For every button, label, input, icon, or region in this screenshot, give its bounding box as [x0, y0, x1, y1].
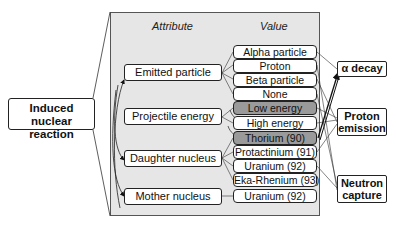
value-beta-particle[interactable]: Beta particle	[233, 73, 317, 87]
neutron-capture-line2: capture	[338, 189, 386, 201]
attribute-daughter-nucleus[interactable]: Daughter nucleus	[124, 150, 222, 167]
neutron-capture-line1: Neutron	[338, 177, 386, 189]
value-mother-uranium-92[interactable]: Uranium (92)	[233, 189, 317, 203]
root-label-line2: reaction	[9, 128, 94, 141]
value-alpha-particle[interactable]: Alpha particle	[233, 45, 317, 59]
outcome-alpha-decay-label: α decay	[341, 62, 382, 74]
induced-nuclear-reaction-node[interactable]: Induced nuclear reaction	[8, 98, 95, 130]
outcome-alpha-decay[interactable]: α decay	[337, 61, 387, 77]
proton-emission-line2: emission	[338, 122, 386, 134]
outcome-proton-emission[interactable]: Proton emission	[337, 108, 387, 136]
value-column-header: Value	[260, 20, 288, 32]
value-proton[interactable]: Proton	[233, 59, 317, 73]
value-thorium-90[interactable]: Thorium (90)	[233, 131, 317, 145]
value-protactinium-91[interactable]: Protactinium (91)	[233, 145, 317, 159]
value-high-energy[interactable]: High energy	[233, 116, 317, 130]
attribute-column-header: Attribute	[152, 20, 193, 32]
value-low-energy[interactable]: Low energy	[233, 101, 317, 115]
attribute-emitted-particle[interactable]: Emitted particle	[124, 64, 222, 81]
proton-emission-line1: Proton	[338, 110, 386, 122]
value-uranium-92[interactable]: Uranium (92)	[233, 159, 317, 173]
attribute-mother-nucleus[interactable]: Mother nucleus	[124, 188, 222, 205]
root-label-line1: Induced nuclear	[9, 102, 94, 128]
value-none[interactable]: None	[233, 87, 317, 101]
outcome-neutron-capture[interactable]: Neutron capture	[337, 175, 387, 203]
value-eka-rhenium-93[interactable]: Eka-Rhenium (93)	[233, 173, 317, 187]
attribute-projectile-energy[interactable]: Projectile energy	[124, 108, 222, 125]
